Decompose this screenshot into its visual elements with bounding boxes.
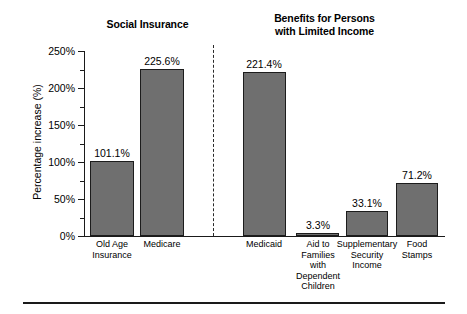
- bar-supplementary-security-income: [346, 211, 388, 236]
- bar-chart-figure: Social Insurance Benefits for Persons wi…: [0, 0, 467, 314]
- y-tick-minor-225: [80, 70, 84, 71]
- group-divider-dashed-line: [213, 45, 214, 236]
- bottom-horizontal-rule: [23, 302, 445, 304]
- bar-value-label-old-age-insurance: 101.1%: [82, 148, 142, 159]
- y-tick-label-150: 150%: [3, 120, 75, 130]
- y-tick-0: [78, 236, 84, 237]
- y-tick-label-250: 250%: [3, 46, 75, 56]
- y-tick-minor-25: [80, 218, 84, 219]
- y-tick-label-50: 50%: [3, 194, 75, 204]
- bar-aid-to-families-with-dependent-children: [296, 233, 339, 236]
- y-tick-50: [78, 199, 84, 200]
- bar-medicare: [140, 69, 184, 236]
- bar-value-label-food-stamps: 71.2%: [387, 170, 447, 181]
- bar-category-label-food-stamps: Food Stamps: [389, 239, 445, 260]
- y-tick-label-200: 200%: [3, 83, 75, 93]
- y-tick-150: [78, 125, 84, 126]
- bar-food-stamps: [396, 183, 438, 236]
- group-title-limited-income: Benefits for Persons with Limited Income: [232, 12, 417, 37]
- y-tick-200: [78, 88, 84, 89]
- y-tick-100: [78, 162, 84, 163]
- bar-value-label-supplementary-security-income: 33.1%: [337, 198, 397, 209]
- group-title-social-insurance: Social Insurance: [90, 18, 205, 31]
- y-tick-label-100: 100%: [3, 157, 75, 167]
- y-tick-minor-175: [80, 107, 84, 108]
- bar-category-label-medicaid: Medicaid: [234, 239, 294, 250]
- y-tick-minor-125: [80, 144, 84, 145]
- x-axis-line: [84, 236, 445, 237]
- y-tick-250: [78, 51, 84, 52]
- bar-category-label-medicare: Medicare: [132, 239, 192, 250]
- bar-old-age-insurance: [90, 161, 134, 236]
- y-tick-minor-75: [80, 181, 84, 182]
- bar-value-label-aid-to-families-with-dependent-children: 3.3%: [288, 220, 348, 231]
- bar-value-label-medicare: 225.6%: [132, 56, 192, 67]
- bar-medicaid: [243, 72, 286, 236]
- y-tick-label-0: 0%: [3, 231, 75, 241]
- y-axis-line: [84, 51, 85, 237]
- bar-value-label-medicaid: 221.4%: [234, 59, 294, 70]
